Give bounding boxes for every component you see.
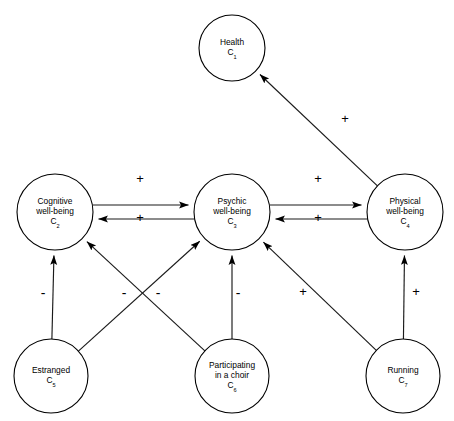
node-c4[interactable]: Physicalwell-beingC4 [367, 174, 443, 250]
node-c3[interactable]: Psychicwell-beingC3 [194, 174, 270, 250]
edge-running-to-physical [403, 256, 404, 340]
node-c1-label-line-0: Health [220, 37, 245, 47]
diagram-canvas: HealthC1Cognitivewell-beingC2Psychicwell… [0, 0, 454, 421]
edge-cognitive-to-psychic-sign: + [136, 171, 144, 186]
node-c2[interactable]: Cognitivewell-beingC2 [17, 174, 93, 250]
node-c3-label-line-0: Psychic [218, 196, 247, 206]
edge-estranged-to-cognitive [52, 255, 54, 339]
node-c1-index: 1 [233, 54, 236, 60]
node-c5-index: 5 [52, 382, 55, 388]
node-c4-label-line-0: Physical [389, 196, 420, 206]
node-c7-label-line-0: Running [387, 365, 419, 375]
node-c6-label-line-1: in a choir [215, 370, 249, 380]
node-c6-label-line-0: Participating [209, 360, 255, 370]
node-c6[interactable]: Participatingin a choirC6 [195, 339, 269, 413]
edge-running-to-psychic [263, 242, 376, 350]
edge-psychic-to-cognitive-sign: + [136, 210, 144, 225]
node-c3-index: 3 [233, 223, 236, 229]
edge-choir-to-cognitive [87, 242, 205, 351]
node-c5[interactable]: EstrangedC5 [14, 339, 88, 413]
node-c2-label-line-0: Cognitive [38, 196, 73, 206]
edge-estranged-to-cognitive-sign: - [41, 285, 46, 301]
node-c4-label-line-1: well-being [385, 206, 424, 216]
node-c2-label-line-1: well-being [35, 206, 74, 216]
fuzzy-cognitive-map-svg: HealthC1Cognitivewell-beingC2Psychicwell… [0, 0, 454, 421]
node-c5-label-line-0: Estranged [32, 365, 71, 375]
node-c2-index: 2 [56, 223, 59, 229]
edge-physical-to-health-sign: + [341, 111, 349, 126]
edge-estranged-to-psychic [78, 241, 199, 351]
edge-running-to-psychic-sign: + [299, 284, 307, 299]
node-c6-index: 6 [233, 387, 236, 393]
edge-choir-to-psychic-sign: - [236, 285, 241, 301]
edge-choir-to-cognitive-sign: - [156, 285, 161, 301]
edge-physical-to-health [260, 74, 377, 185]
edge-running-to-physical-sign: + [412, 284, 420, 299]
node-c1[interactable]: HealthC1 [199, 15, 265, 81]
edge-estranged-to-psychic-sign: - [122, 285, 127, 301]
node-c3-label-line-1: well-being [212, 206, 251, 216]
node-c4-index: 4 [406, 223, 409, 229]
nodes-layer: HealthC1Cognitivewell-beingC2Psychicwell… [14, 15, 443, 413]
edge-psychic-to-physical-sign: + [314, 171, 322, 186]
node-c7[interactable]: RunningC7 [366, 339, 440, 413]
node-c7-index: 7 [404, 382, 407, 388]
edge-physical-to-psychic-sign: + [314, 210, 322, 225]
